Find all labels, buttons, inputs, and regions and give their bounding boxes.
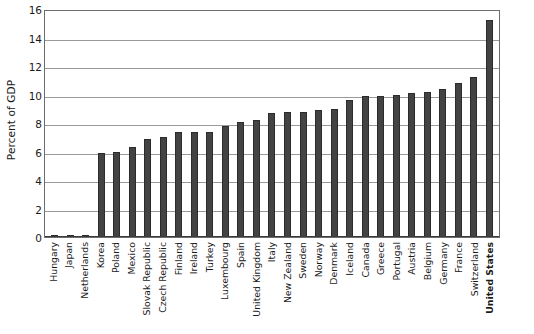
x-axis-tick-label: United Kingdom <box>252 242 261 317</box>
x-axis-tick-label-slot: Mexico <box>124 240 140 334</box>
y-axis-title-text: Percent of GDP <box>5 80 17 160</box>
x-axis-tick-label: Switzerland <box>470 242 479 296</box>
x-axis-tick-label-slot: Czech Republic <box>155 240 171 334</box>
bar-slot <box>373 11 389 237</box>
bar-slot <box>419 11 435 237</box>
x-axis-tick-label-slot: France <box>451 240 467 334</box>
bar[interactable] <box>191 132 198 237</box>
x-axis-tick-label: France <box>455 242 464 273</box>
bar[interactable] <box>160 137 167 237</box>
x-axis-tick-label: Norway <box>314 242 323 277</box>
x-axis-tick-label-slot: Germany <box>436 240 452 334</box>
x-axis-tick-label-slot: Poland <box>108 240 124 334</box>
y-axis-tick-label: 0 <box>18 233 42 243</box>
x-axis-tick-label-slot: Canada <box>358 240 374 334</box>
bar[interactable] <box>175 132 182 237</box>
x-axis-tick-label: Ireland <box>189 242 198 274</box>
x-axis-tick-label: Finland <box>174 242 183 275</box>
x-axis-tick-label-slot: Spain <box>233 240 249 334</box>
bar-slot <box>295 11 311 237</box>
y-axis-tick-label: 16 <box>18 5 42 15</box>
x-axis-tick-label: New Zealand <box>283 242 292 303</box>
bar[interactable] <box>315 110 322 237</box>
bar[interactable] <box>455 83 462 237</box>
bar-slot <box>326 11 342 237</box>
bar[interactable] <box>268 113 275 237</box>
bar-slot <box>202 11 218 237</box>
bar[interactable] <box>439 89 446 237</box>
bar-slot <box>63 11 79 237</box>
x-axis-tick-label: Italy <box>267 242 276 262</box>
x-axis-tick-label-slot: United Kingdom <box>249 240 265 334</box>
bar[interactable] <box>237 122 244 237</box>
bar-slot <box>280 11 296 237</box>
x-axis-tick-label: Belgium <box>423 242 432 280</box>
x-axis-tick-label: Czech Republic <box>158 242 167 313</box>
bar-slot <box>233 11 249 237</box>
bar[interactable] <box>144 139 151 237</box>
x-axis-tick-label-slot: Netherlands <box>77 240 93 334</box>
bar-slot <box>171 11 187 237</box>
bar-slot <box>404 11 420 237</box>
x-axis-tick-label-slot: Japan <box>62 240 78 334</box>
x-axis-tick-label-slot: Portugal <box>389 240 405 334</box>
bar-slot <box>481 11 497 237</box>
x-axis-tick-label-slot: Norway <box>311 240 327 334</box>
x-axis-tick-label-slot: Luxembourg <box>218 240 234 334</box>
bar[interactable] <box>346 100 353 237</box>
y-axis-tick-label: 4 <box>18 176 42 186</box>
x-axis-tick-label: Netherlands <box>80 242 89 299</box>
bar[interactable] <box>331 109 338 237</box>
bar[interactable] <box>300 112 307 237</box>
bar[interactable] <box>113 152 120 238</box>
bar[interactable] <box>253 120 260 237</box>
x-axis-tick-label: Denmark <box>330 242 339 285</box>
y-axis-tick-label: 6 <box>18 148 42 158</box>
x-axis-tick-label-slot: Iceland <box>342 240 358 334</box>
bar-slot <box>109 11 125 237</box>
bar[interactable] <box>408 93 415 237</box>
x-axis-tick-label-slot: Slovak Republic <box>140 240 156 334</box>
bar-slot <box>311 11 327 237</box>
x-axis-tick-label: Poland <box>112 242 121 273</box>
x-axis-tick-label-slot: Italy <box>264 240 280 334</box>
bar-chart: Percent of GDP 0246810121416 HungaryJapa… <box>0 0 534 334</box>
x-axis-tick-label-slot: Turkey <box>202 240 218 334</box>
bar-slot <box>342 11 358 237</box>
x-axis-tick-label: Sweden <box>299 242 308 279</box>
bar[interactable] <box>222 126 229 237</box>
bars-container <box>45 11 499 237</box>
bar[interactable] <box>98 153 105 237</box>
bar[interactable] <box>393 95 400 238</box>
x-axis-tick-label-slot: Korea <box>93 240 109 334</box>
bar-slot <box>450 11 466 237</box>
x-axis-tick-label: Portugal <box>392 242 401 281</box>
bar[interactable] <box>424 92 431 237</box>
x-axis-tick-label-slot: United States <box>483 240 499 334</box>
bar[interactable] <box>362 96 369 237</box>
x-axis-tick-label-slot: New Zealand <box>280 240 296 334</box>
x-axis-tick-label: Mexico <box>127 242 136 274</box>
x-axis-tick-label: Luxembourg <box>221 242 230 300</box>
bar-slot <box>249 11 265 237</box>
x-axis-tick-label: Iceland <box>345 242 354 276</box>
x-axis-tick-label: Slovak Republic <box>143 242 152 315</box>
bar[interactable] <box>486 20 493 237</box>
x-axis-tick-label: Korea <box>96 242 105 268</box>
x-axis-tick-label: Turkey <box>205 242 214 272</box>
bar[interactable] <box>377 96 384 237</box>
bar-slot <box>187 11 203 237</box>
bar[interactable] <box>284 112 291 237</box>
bar-slot <box>357 11 373 237</box>
x-axis-tick-label-slot: Sweden <box>296 240 312 334</box>
bar-slot <box>388 11 404 237</box>
x-axis-tick-label: Spain <box>236 242 245 268</box>
bar-slot <box>156 11 172 237</box>
bar[interactable] <box>129 147 136 237</box>
bar-slot <box>435 11 451 237</box>
plot-area <box>44 10 500 238</box>
bar[interactable] <box>470 77 477 237</box>
bar[interactable] <box>206 132 213 237</box>
x-axis-tick-label-slot: Hungary <box>46 240 62 334</box>
y-axis-tick-label: 14 <box>18 34 42 44</box>
